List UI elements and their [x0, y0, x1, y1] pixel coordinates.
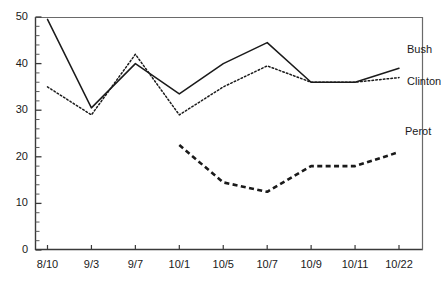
x-axis-tick-label: 9/7: [113, 258, 157, 270]
series-label-perot: Perot: [405, 125, 431, 137]
chart-axes: [36, 17, 424, 250]
x-axis-tick-label: 10/1: [157, 258, 201, 270]
x-axis-tick-label: 9/3: [69, 258, 113, 270]
y-axis-tick-label: 30: [2, 103, 28, 115]
y-axis-tick-label: 0: [2, 243, 28, 255]
x-axis-tick-label: 10/5: [201, 258, 245, 270]
x-axis-tick-label: 10/7: [245, 258, 289, 270]
series-line-perot: [179, 145, 399, 192]
series-label-bush: Bush: [407, 43, 432, 55]
x-axis-tick-label: 10/22: [377, 258, 421, 270]
x-axis-tick-label: 8/10: [26, 258, 70, 270]
chart-series-lines: [48, 19, 400, 192]
x-axis-tick-label: 10/11: [333, 258, 377, 270]
y-axis-ticks: [36, 17, 42, 250]
series-label-clinton: Clinton: [407, 75, 441, 87]
series-line-bush: [48, 19, 400, 108]
y-axis-tick-label: 20: [2, 150, 28, 162]
y-axis-tick-label: 40: [2, 57, 28, 69]
y-axis-tick-label: 50: [2, 10, 28, 22]
x-axis-tick-label: 10/9: [289, 258, 333, 270]
y-axis-tick-label: 10: [2, 196, 28, 208]
